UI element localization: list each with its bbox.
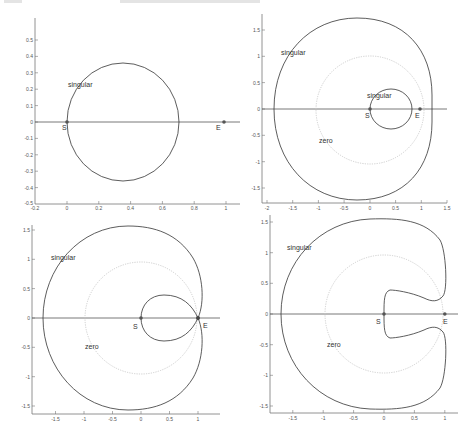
panel-top-right: 1.5 1 0.5 0 -0.5 -1 -1.5 -2 -1.5 -1 -0.5… — [251, 14, 450, 211]
label-s: S — [376, 318, 381, 325]
x-tick-label: 1 — [443, 415, 446, 421]
label-zero: zero — [327, 341, 341, 348]
y-tick-label: 1 — [257, 53, 260, 59]
x-tick-label: 0 — [369, 205, 372, 211]
x-ticks: -2 -1.5 -1 -0.5 0 0.5 1 1.5 — [265, 200, 451, 211]
label-e: E — [216, 124, 221, 131]
y-tick-label: 1.5 — [253, 27, 260, 33]
label-s: S — [365, 112, 370, 119]
y-tick-label: -1.5 — [21, 403, 30, 409]
y-tick-label: -0.5 — [251, 132, 260, 138]
label-singular: singular — [51, 254, 76, 262]
x-tick-label: -1 — [316, 205, 321, 211]
point-s — [382, 312, 386, 316]
y-tick-label: -1.5 — [259, 403, 268, 409]
y-tick-label: 0 — [257, 106, 260, 112]
y-tick-label: -0.3 — [24, 168, 33, 174]
x-tick-label: 0.5 — [392, 205, 399, 211]
y-tick-label: 1 — [265, 250, 268, 256]
label-e: E — [203, 322, 208, 329]
x-tick-label: 0.8 — [191, 205, 198, 211]
x-tick-label: 0.2 — [95, 205, 102, 211]
x-tick-label: 0.4 — [127, 205, 134, 211]
x-tick-label: 1 — [420, 205, 423, 211]
x-tick-label: -1 — [321, 415, 326, 421]
point-e — [196, 316, 200, 320]
y-tick-label: 0.3 — [26, 70, 33, 76]
panel-top-left: 0.5 0.4 0.3 0.2 0.1 0 -0.1 -0.2 -0.3 -0.… — [24, 18, 240, 211]
y-tick-label: -1 — [256, 159, 261, 165]
y-tick-label: -0.1 — [24, 135, 33, 141]
label-singular: singular — [68, 81, 93, 89]
x-tick-label: 0.6 — [159, 205, 166, 211]
x-tick-label: -0.5 — [340, 205, 349, 211]
y-tick-label: 1 — [27, 256, 30, 262]
point-s — [368, 107, 372, 111]
x-tick-label: 0 — [140, 416, 143, 422]
x-tick-label: 1 — [225, 205, 228, 211]
x-tick-label: -0.5 — [108, 416, 117, 422]
y-tick-label: 0.5 — [261, 280, 268, 286]
x-tick-label: -2 — [265, 205, 270, 211]
x-tick-label: -1.5 — [288, 205, 297, 211]
y-tick-label: 0.1 — [26, 103, 33, 109]
x-tick-label: -1.5 — [288, 415, 297, 421]
x-tick-label: 0.5 — [166, 416, 173, 422]
y-tick-label: -1 — [26, 374, 31, 380]
x-tick-label: 1.5 — [444, 205, 451, 211]
x-tick-label: -1.5 — [51, 416, 60, 422]
label-e: E — [415, 112, 420, 119]
label-singular: singular — [287, 244, 312, 252]
label-singular-outer: singular — [281, 49, 306, 57]
label-s: S — [62, 124, 67, 131]
point-e — [418, 107, 422, 111]
x-ticks: -1.5 -1 -0.5 0 0.5 1 — [288, 410, 446, 421]
y-ticks: 0.5 0.4 0.3 0.2 0.1 0 -0.1 -0.2 -0.3 -0.… — [24, 37, 38, 206]
y-tick-label: 0.2 — [26, 86, 33, 92]
label-zero: zero — [319, 137, 333, 144]
y-tick-label: 0 — [30, 119, 33, 125]
label-zero: zero — [85, 343, 99, 350]
x-tick-label: -0.2 — [31, 205, 40, 211]
x-ticks: -1.5 -1 -0.5 0 0.5 1 — [51, 411, 199, 422]
point-s — [139, 316, 143, 320]
x-ticks: -0.2 0 0.2 0.4 0.6 0.8 1 — [31, 201, 228, 211]
y-tick-label: 0.5 — [253, 80, 260, 86]
point-e — [222, 120, 226, 124]
figure: 0.5 0.4 0.3 0.2 0.1 0 -0.1 -0.2 -0.3 -0.… — [0, 0, 476, 443]
x-tick-label: 0 — [383, 415, 386, 421]
y-tick-label: 1.5 — [23, 227, 30, 233]
y-tick-label: 1.5 — [261, 219, 268, 225]
y-tick-label: 0.5 — [23, 286, 30, 292]
y-tick-label: -0.5 — [259, 342, 268, 348]
y-tick-label: -1.5 — [251, 185, 260, 191]
panel-bottom-left: 1.5 1 0.5 0 -0.5 -1 -1.5 -1.5 -1 -0.5 0 … — [21, 225, 220, 422]
x-tick-label: 1 — [197, 416, 200, 422]
y-tick-label: -1 — [264, 372, 269, 378]
x-tick-label: -0.5 — [349, 415, 358, 421]
y-tick-label: -0.2 — [24, 152, 33, 158]
label-singular-inner: singular — [367, 92, 392, 100]
panel-bottom-right: 1.5 1 0.5 0 -0.5 -1 -1.5 -1.5 -1 -0.5 0 … — [259, 215, 458, 421]
x-tick-label: -1 — [82, 416, 87, 422]
y-tick-label: -0.5 — [21, 344, 30, 350]
label-e: E — [443, 318, 448, 325]
y-tick-label: -0.4 — [24, 185, 33, 191]
label-s: S — [133, 323, 138, 330]
y-tick-label: 0 — [265, 311, 268, 317]
y-tick-label: 0 — [27, 315, 30, 321]
x-tick-label: 0.5 — [411, 415, 418, 421]
y-tick-label: 0.4 — [26, 53, 33, 59]
y-tick-label: 0.5 — [26, 37, 33, 43]
x-tick-label: 0 — [66, 205, 69, 211]
point-e — [443, 312, 447, 316]
